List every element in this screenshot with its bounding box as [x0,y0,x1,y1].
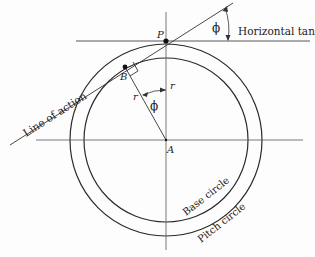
label-b: B [119,71,127,82]
label-r-right: r [170,80,176,91]
point-b-dot [123,65,128,70]
point-a-dot [165,139,167,141]
label-horizontal-tangent: Horizontal tangent [238,25,315,37]
label-pitch-circle: Pitch circle [195,200,247,244]
phi-arrowhead-center-left [142,92,148,97]
radius-ab [125,67,166,140]
label-line-of-action: Line of action [21,89,89,138]
gear-geometry-diagram: P B A ϕ ϕ r r Horizontal tangent Line of… [0,0,315,257]
label-a: A [166,144,174,155]
label-phi-center: ϕ [150,99,158,113]
label-phi-top: ϕ [212,21,220,35]
phi-arrowhead-center-right [160,88,166,93]
point-p-dot [163,38,168,43]
label-r-left: r [133,91,139,102]
diagram-svg: P B A ϕ ϕ r r Horizontal tangent Line of… [0,0,315,257]
phi-arrowhead-top [226,35,231,41]
label-p: P [156,29,164,40]
